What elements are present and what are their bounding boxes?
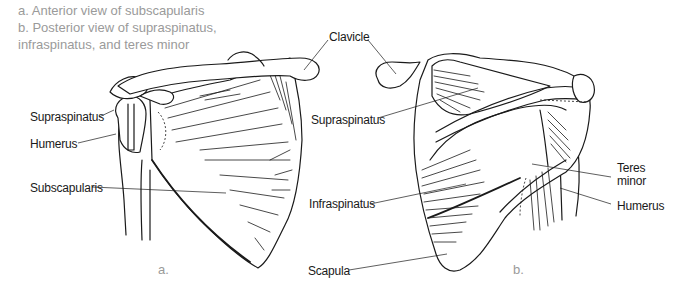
label-subscapularis: Subscapularis xyxy=(30,181,103,195)
label-supraspinatus-a: Supraspinatus xyxy=(30,110,104,124)
label-teres-minor-2: minor xyxy=(617,174,646,188)
label-teres-minor-1: Teres xyxy=(617,161,645,175)
caption-line-b: b. Posterior view of supraspinatus, xyxy=(18,19,217,36)
figure-label-a: a. xyxy=(158,262,169,277)
figure-caption: a. Anterior view of subscapularis b. Pos… xyxy=(18,2,217,53)
caption-line-a: a. Anterior view of subscapularis xyxy=(18,2,217,19)
label-humerus-a: Humerus xyxy=(30,137,77,151)
rotator-cuff-diagram: a. Anterior view of subscapularis b. Pos… xyxy=(0,0,677,286)
label-infraspinatus: Infraspinatus xyxy=(309,197,375,211)
label-scapula: Scapula xyxy=(308,264,350,278)
label-humerus-b: Humerus xyxy=(617,199,664,213)
figure-b-drawing xyxy=(376,54,594,271)
caption-line-b-cont: infraspinatus, and teres minor xyxy=(18,36,217,53)
figure-a-drawing xyxy=(110,52,319,268)
figure-label-b: b. xyxy=(513,262,524,277)
label-clavicle: Clavicle xyxy=(329,30,369,44)
label-supraspinatus-b: Supraspinatus xyxy=(311,113,385,127)
